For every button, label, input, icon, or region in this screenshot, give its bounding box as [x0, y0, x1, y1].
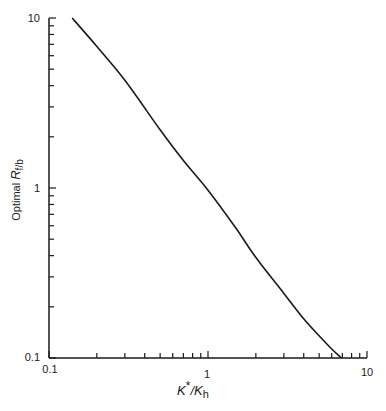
y-axis-title-optimal: Optimal	[10, 180, 22, 221]
y-tick-label-1: 1	[34, 182, 40, 194]
axes	[49, 18, 367, 358]
y-tick-label-0.1: 0.1	[25, 351, 40, 363]
y-axis-title-sub: f/b	[14, 159, 25, 171]
x-tick-label-0.1: 0.1	[42, 363, 57, 375]
chart-canvas: 10 1 0.1 0.1 1 10 K*/Kh Optimal Rf/b	[0, 0, 386, 411]
y-axis-title-r: R	[8, 170, 23, 179]
y-axis-title: Optimal Rf/b	[8, 159, 25, 221]
x-tick-label-1: 1	[204, 368, 210, 380]
optimal-rfb-curve	[72, 18, 341, 358]
axis-ticks	[49, 18, 367, 358]
y-tick-label-10: 10	[28, 12, 40, 24]
x-tick-label-10: 10	[361, 366, 373, 378]
x-axis-title-sub: h	[203, 388, 209, 400]
x-axis-title: K*/Kh	[177, 379, 209, 400]
